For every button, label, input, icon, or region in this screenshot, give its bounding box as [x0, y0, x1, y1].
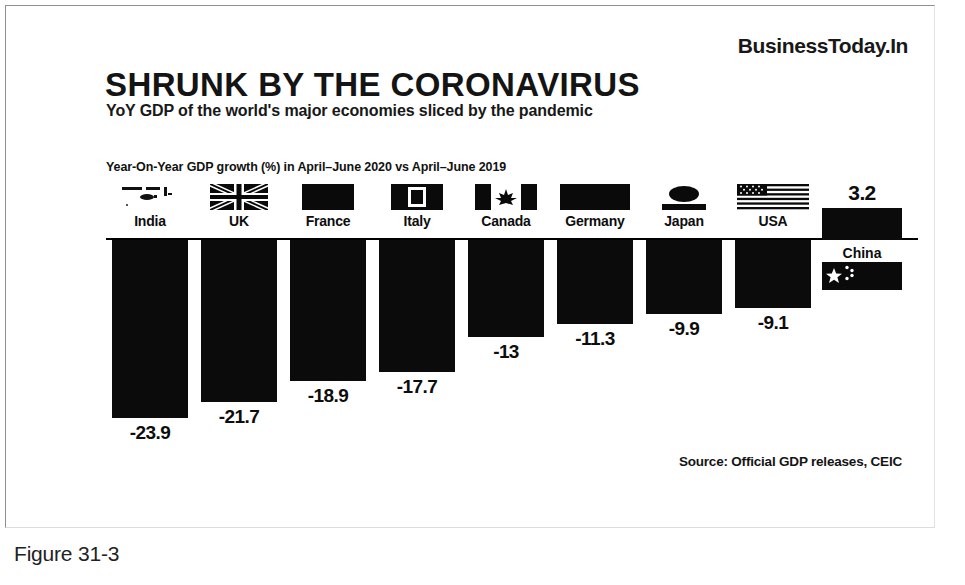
bar-column-india: India-23.9 [106, 182, 194, 442]
bar-value-uk: -21.7 [195, 407, 283, 426]
flag-india-icon [120, 184, 180, 210]
flag-china-icon [822, 262, 902, 290]
bar-column-france: France-18.9 [284, 182, 372, 442]
country-label-canada: Canada [462, 214, 550, 228]
bar-column-italy: Italy-17.7 [373, 182, 461, 442]
bar-value-china: 3.2 [818, 182, 906, 203]
bar-value-usa: -9.1 [729, 313, 817, 332]
bar-value-germany: -11.3 [551, 329, 639, 348]
flag-japan-icon [662, 184, 706, 210]
bar-france [290, 240, 366, 381]
bar-column-germany: Germany-11.3 [551, 182, 639, 442]
flag-france-icon [302, 184, 354, 210]
flag-uk-icon [210, 184, 268, 210]
bar-column-china: 3.2 China [818, 182, 906, 442]
bar-germany [557, 240, 633, 324]
country-label-germany: Germany [551, 214, 639, 228]
country-label-italy: Italy [373, 214, 461, 228]
bar-japan [646, 240, 722, 314]
chart-axis-caption: Year-On-Year GDP growth (%) in April–Jun… [106, 160, 506, 174]
bar-usa [735, 240, 811, 308]
bar-italy [379, 240, 455, 372]
country-label-china: China [818, 246, 906, 260]
bar-value-japan: -9.9 [640, 319, 728, 338]
subtitle: YoY GDP of the world's major economies s… [106, 101, 666, 121]
bar-chart: India-23.9UK-21.7France-18.9Italy-17.7Ca… [106, 182, 918, 442]
flag-germany-icon [560, 184, 630, 210]
bar-column-usa: USA-9.1 [729, 182, 817, 442]
bar-column-canada: Canada-13 [462, 182, 550, 442]
bar-value-france: -18.9 [284, 386, 372, 405]
flag-italy-icon [391, 184, 443, 210]
bar-column-japan: Japan-9.9 [640, 182, 728, 442]
publisher-brand: BusinessToday.In [738, 34, 908, 58]
bar-value-italy: -17.7 [373, 377, 461, 396]
bar-india [112, 240, 188, 418]
infographic: BusinessToday.In SHRUNK BY THE CORONAVIR… [6, 6, 936, 529]
bar-column-uk: UK-21.7 [195, 182, 283, 442]
flag-canada-icon [475, 184, 537, 210]
bar-canada [468, 240, 544, 337]
country-label-japan: Japan [640, 214, 728, 228]
source-note: Source: Official GDP releases, CEIC [679, 454, 902, 469]
figure-caption: Figure 31-3 [14, 542, 119, 566]
bar-value-canada: -13 [462, 342, 550, 361]
page-title: SHRUNK BY THE CORONAVIRUS [105, 66, 640, 104]
country-label-uk: UK [195, 214, 283, 228]
flag-usa-icon [737, 184, 809, 210]
bar-china [822, 208, 902, 240]
country-label-usa: USA [729, 214, 817, 228]
bar-uk [201, 240, 277, 402]
scanned-page-frame: BusinessToday.In SHRUNK BY THE CORONAVIR… [5, 5, 935, 528]
bar-value-india: -23.9 [106, 423, 194, 442]
country-label-india: India [106, 214, 194, 228]
country-label-france: France [284, 214, 372, 228]
